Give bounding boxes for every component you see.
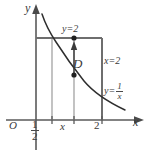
annotation-y-equals-2: y=2: [62, 24, 78, 34]
y-axis-label: y: [25, 2, 30, 14]
strip-arrowhead: [71, 41, 77, 50]
curve-equation-lhs: y=: [104, 85, 115, 96]
y-axis-arrowhead: [32, 4, 40, 14]
marker-lower-point: [71, 72, 76, 77]
annotation-region-d: D: [73, 57, 82, 70]
curve-fraction-numerator: 1: [116, 82, 123, 91]
tick-label-two: 2: [94, 120, 100, 131]
annotation-x-equals-2: x=2: [104, 56, 120, 66]
fraction-numerator: 1: [31, 119, 39, 130]
marker-upper-point: [71, 35, 76, 40]
curve-equation-fraction: 1 x: [116, 82, 123, 101]
tick-label-x: x: [60, 121, 65, 132]
x-axis: [6, 116, 144, 123]
fraction-denominator: 2: [31, 130, 39, 142]
curve-fraction-denominator: x: [116, 91, 123, 101]
tick-label-one-half: 1 2: [31, 119, 39, 142]
x-axis-label: x: [133, 116, 138, 128]
fraction-one-half: 1 2: [31, 119, 39, 142]
origin-label: O: [9, 120, 17, 131]
figure-canvas: y x O 1 2 x 2 y=2 x=2 D y= 1 x: [0, 0, 149, 159]
annotation-curve-equation: y= 1 x: [104, 82, 123, 101]
